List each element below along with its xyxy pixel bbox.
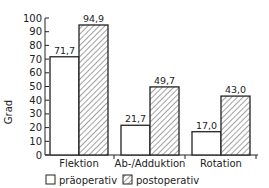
bar-post xyxy=(221,96,250,155)
value-label: 43,0 xyxy=(225,84,246,95)
bar-post xyxy=(79,25,108,155)
bar-pre xyxy=(192,132,221,155)
value-label: 49,7 xyxy=(154,75,175,86)
value-label: 94,9 xyxy=(83,13,104,24)
category-label: Rotation xyxy=(200,158,242,169)
y-tick-label: 100 xyxy=(23,13,42,24)
bar-post xyxy=(150,87,179,155)
value-label: 21,7 xyxy=(125,113,146,124)
y-tick-label: 40 xyxy=(29,95,42,106)
category-label: Ab-/Adduktion xyxy=(115,158,186,169)
bar-pre xyxy=(50,57,79,155)
y-tick-label: 20 xyxy=(29,122,42,133)
y-tick-label: 50 xyxy=(29,81,42,92)
bar-pre xyxy=(121,125,150,155)
legend-label-post: postoperativ xyxy=(136,175,199,186)
y-tick-label: 30 xyxy=(29,108,42,119)
bar-chart: 0102030405060708090100 71,794,921,749,71… xyxy=(0,0,269,188)
y-tick-label: 60 xyxy=(29,67,42,78)
y-tick-label: 80 xyxy=(29,40,42,51)
value-label: 17,0 xyxy=(196,120,217,131)
y-tick-label: 0 xyxy=(36,150,42,161)
y-tick-label: 10 xyxy=(29,136,42,147)
y-tick-label: 90 xyxy=(29,26,42,37)
legend: präoperativ postoperativ xyxy=(46,175,199,186)
legend-swatch-pre xyxy=(46,175,55,184)
category-label: Flektion xyxy=(59,158,99,169)
x-axis-labels: FlektionAb-/AdduktionRotation xyxy=(59,158,242,169)
legend-swatch-post xyxy=(123,175,132,184)
bars: 71,794,921,749,717,043,0 xyxy=(50,13,250,155)
value-label: 71,7 xyxy=(54,45,75,56)
legend-label-pre: präoperativ xyxy=(59,175,117,186)
y-axis-label: Grad xyxy=(3,100,14,124)
y-tick-label: 70 xyxy=(29,54,42,65)
